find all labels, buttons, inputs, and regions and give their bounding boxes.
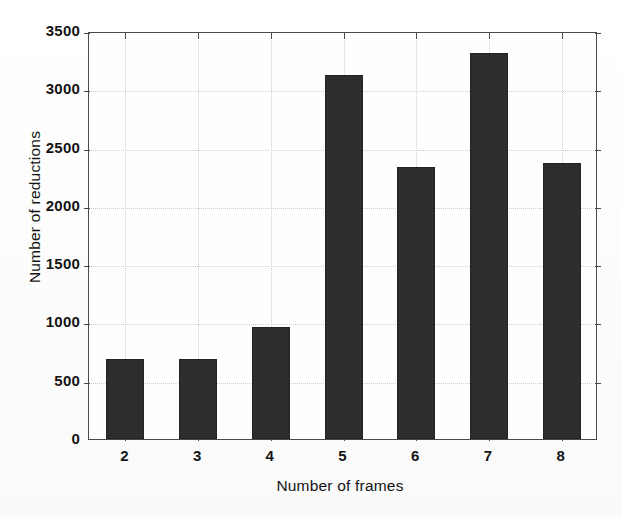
bar: [252, 327, 290, 439]
x-axis-tick-top: [489, 33, 490, 39]
bar: [106, 359, 144, 439]
bar: [470, 53, 508, 439]
bar: [397, 167, 435, 439]
y-axis-tick: [84, 208, 90, 209]
y-axis-tick-right: [595, 324, 601, 325]
y-axis-title: Number of reductions: [26, 37, 44, 377]
y-axis-tick-right: [595, 208, 601, 209]
y-axis-tick: [84, 266, 90, 267]
y-axis-tick-right: [595, 91, 601, 92]
x-axis-tick-label: 4: [240, 447, 300, 464]
x-axis-tick-label: 2: [94, 447, 154, 464]
y-axis-tick-right: [595, 33, 601, 34]
x-axis-tick-top: [125, 33, 126, 39]
x-axis-tick-top: [271, 33, 272, 39]
y-axis-tick: [84, 324, 90, 325]
y-axis-tick: [84, 33, 90, 34]
y-axis-tick-right: [595, 383, 601, 384]
x-axis-tick-top: [198, 33, 199, 39]
x-axis-tick-label: 8: [531, 447, 591, 464]
x-axis-tick-label: 5: [313, 447, 373, 464]
bar: [179, 359, 217, 439]
x-axis-tick-label: 3: [167, 447, 227, 464]
y-axis-tick: [84, 150, 90, 151]
bar: [543, 163, 581, 439]
x-axis-tick-label: 7: [458, 447, 518, 464]
x-axis-tick-top: [344, 33, 345, 39]
x-axis-title-text: Number of frames: [276, 477, 403, 495]
x-axis-tick-top: [416, 33, 417, 39]
y-axis-tick-right: [595, 266, 601, 267]
bar: [325, 75, 363, 439]
y-axis-tick-label: 0: [6, 430, 80, 447]
x-axis-tick-label: 6: [385, 447, 445, 464]
figure-canvas: 0500100015002000250030003500 Number of r…: [0, 0, 622, 517]
x-axis-title: Number of frames: [0, 477, 622, 495]
plot-area: [88, 32, 597, 440]
y-axis-tick: [84, 91, 90, 92]
y-axis-tick: [84, 383, 90, 384]
y-axis-tick-right: [595, 150, 601, 151]
x-axis-tick-top: [562, 33, 563, 39]
